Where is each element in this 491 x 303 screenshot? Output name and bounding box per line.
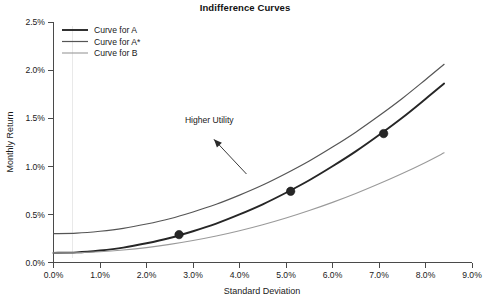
x-tick-label: 2.0% <box>137 270 157 280</box>
chart-container: Indifference Curves 0.0%0.5%1.0%1.5%2.0%… <box>0 0 491 303</box>
x-tick-label: 4.0% <box>230 270 250 280</box>
legend-label-2: Curve for A* <box>94 37 141 47</box>
y-tick-label: 2.5% <box>25 17 45 27</box>
y-tick-label: 2.0% <box>25 65 45 75</box>
x-tick-label: 3.0% <box>183 270 203 280</box>
x-tick-label: 7.0% <box>369 270 389 280</box>
legend-label-3: Curve for B <box>94 48 138 58</box>
x-tick-label: 5.0% <box>276 270 296 280</box>
annotation-text-higher-utility: Higher Utility <box>185 115 234 125</box>
y-tick-label: 0.0% <box>25 258 45 268</box>
x-tick-label: 9.0% <box>462 270 482 280</box>
x-tick-label: 8.0% <box>416 270 436 280</box>
data-point-marker <box>286 187 294 195</box>
data-point-marker <box>175 230 183 238</box>
y-tick-label: 1.0% <box>25 162 45 172</box>
y-tick-label: 0.5% <box>25 210 45 220</box>
y-tick-label: 1.5% <box>25 113 45 123</box>
indifference-curves-chart: Indifference Curves 0.0%0.5%1.0%1.5%2.0%… <box>0 0 491 303</box>
x-tick-label: 6.0% <box>323 270 343 280</box>
x-axis-title: Standard Deviation <box>224 286 301 296</box>
data-point-marker <box>379 129 387 137</box>
chart-background <box>0 0 491 303</box>
y-axis-title: Monthly Return <box>5 111 15 172</box>
chart-legend: Curve for ACurve for A*Curve for B <box>62 25 141 58</box>
chart-title: Indifference Curves <box>200 2 291 13</box>
legend-label-1: Curve for A <box>94 25 137 35</box>
x-tick-label: 0.0% <box>44 270 64 280</box>
x-tick-label: 1.0% <box>90 270 110 280</box>
